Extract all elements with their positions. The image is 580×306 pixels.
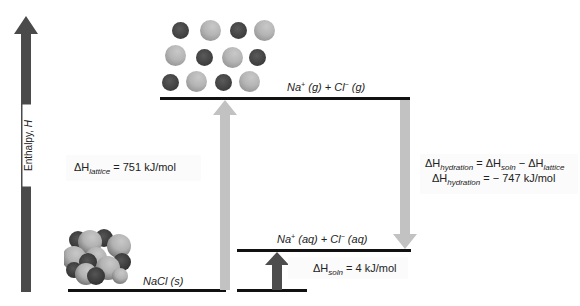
- na-ion-icon: [162, 74, 179, 91]
- na-ion-icon: [172, 22, 189, 39]
- enthalpy-axis-label: Enthalpy, H: [23, 105, 34, 187]
- hydration-energy-arrow: [392, 100, 418, 250]
- na-ion-icon: [215, 74, 232, 91]
- axis-label-var: H: [23, 120, 34, 127]
- solution-equation: ΔHsoln = 4 kJ/mol: [313, 262, 396, 274]
- na-ion-icon: [249, 49, 266, 66]
- lattice-energy-arrow: [212, 99, 238, 291]
- na-ion-icon: [196, 49, 213, 66]
- solid-nacl-level: [68, 289, 226, 292]
- cl-ion-icon: [239, 71, 260, 92]
- na-ion-icon: [230, 22, 247, 39]
- solution-enthalpy-arrow: [264, 251, 290, 291]
- axis-label-text: Enthalpy,: [23, 127, 34, 171]
- hydration-equation-line1: ΔHhydration = ΔHsoln − ΔHlattice: [425, 157, 564, 169]
- solid-nacl-label: NaCl (s): [143, 275, 183, 287]
- cl-ion-icon: [254, 20, 275, 41]
- separated-ions-icon: [0, 0, 300, 100]
- hydration-equation-line2: ΔHhydration = − 747 kJ/mol: [432, 172, 555, 184]
- cl-ion-icon: [165, 45, 186, 66]
- cl-ion-icon: [222, 47, 243, 68]
- cl-ion-icon: [186, 71, 207, 92]
- cl-ion-icon: [200, 20, 221, 41]
- lattice-equation: ΔHlattice = 751 kJ/mol: [74, 161, 176, 173]
- nacl-crystal-icon: [64, 228, 134, 286]
- aqueous-ions-label: Na+ (aq) + Cl− (aq): [277, 233, 367, 245]
